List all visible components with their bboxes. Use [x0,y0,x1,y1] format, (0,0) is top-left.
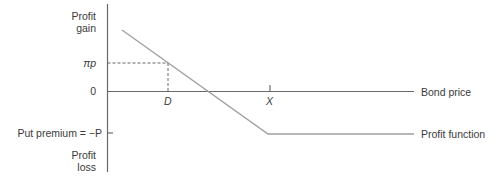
tick-label-x: X [266,95,273,107]
curve-label: Profit function [421,128,485,140]
profit-loss-line1: Profit [71,149,96,161]
tick-label-put-premium: Put premium = −P [17,127,102,139]
tick-label-d: D [164,95,172,107]
tick-label-zero: 0 [90,85,96,97]
profit-gain-line2: gain [71,22,96,34]
profit-loss-line2: loss [71,161,96,173]
x-axis-label: Bond price [421,86,471,98]
profit-function-curve [122,30,414,134]
y-axis-label-gain: Profit gain [71,10,96,34]
y-axis-label-loss: Profit loss [71,149,96,173]
profit-gain-line1: Profit [71,10,96,22]
tick-label-pip: πp [83,57,96,69]
